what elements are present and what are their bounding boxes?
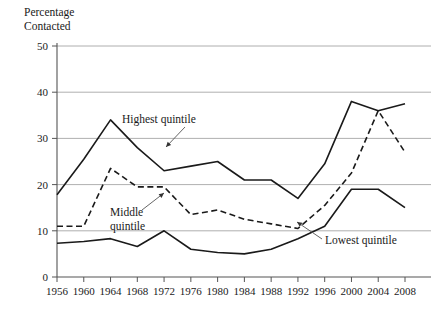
x-tick-label: 1960 (73, 285, 96, 297)
annotation-arrowhead (297, 222, 302, 227)
y-tick-label: 0 (43, 271, 49, 283)
y-tick-label: 50 (37, 40, 49, 52)
x-tick-label: 1976 (180, 285, 203, 297)
x-axis-ticks: 1956196019641968197219761980198419881992… (46, 277, 417, 297)
annotation-label: Middlequintile (110, 206, 145, 233)
x-tick-label: 1988 (260, 285, 283, 297)
chart-container: Percentage Contacted 01020304050 1956196… (0, 0, 437, 316)
x-tick-label: 2000 (340, 285, 363, 297)
x-tick-label: 1956 (46, 285, 69, 297)
gridlines (57, 46, 431, 231)
x-tick-label: 1984 (233, 285, 256, 297)
x-tick-label: 2008 (394, 285, 417, 297)
annotation-label: Lowest quintile (325, 234, 397, 247)
y-tick-label: 40 (37, 86, 49, 98)
x-tick-label: 1964 (100, 285, 123, 297)
annotation-label: Highest quintile (122, 113, 196, 126)
annotation-arrowhead (159, 193, 164, 198)
x-tick-label: 1980 (207, 285, 230, 297)
x-tick-label: 2004 (367, 285, 390, 297)
series-line-highest-quintile (57, 101, 405, 198)
x-tick-label: 1992 (287, 285, 309, 297)
x-tick-label: 1968 (126, 285, 149, 297)
y-tick-label: 30 (37, 132, 49, 144)
y-tick-label: 10 (37, 225, 49, 237)
y-axis-ticks: 01020304050 (37, 40, 57, 283)
x-tick-label: 1996 (314, 285, 337, 297)
x-tick-label: 1972 (153, 285, 175, 297)
line-chart-svg: 01020304050 1956196019641968197219761980… (0, 0, 437, 316)
y-tick-label: 20 (37, 179, 49, 191)
